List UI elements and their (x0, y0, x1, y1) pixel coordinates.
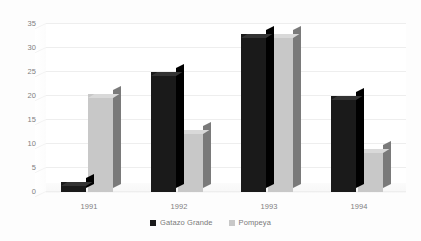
bar-1992-series1[interactable] (151, 72, 176, 192)
legend-label: Gatazo Grande (160, 218, 213, 227)
chart-legend: Gatazo GrandePompeya (0, 218, 421, 227)
bar-side-face (266, 26, 274, 188)
y-axis-tick-label: 30 (27, 44, 36, 52)
y-axis-tick-label: 20 (27, 92, 36, 100)
chart-container: 35302520151050 1991199219931994 Gatazo G… (0, 0, 421, 241)
legend-swatch-icon (229, 220, 235, 226)
x-axis-tick-label: 1992 (170, 202, 187, 211)
y-axis-tick-label: 35 (27, 20, 36, 28)
bar-1993-series1[interactable] (241, 34, 266, 192)
bars-layer (46, 24, 406, 192)
bar-side-face (293, 26, 301, 188)
bar-1994-series1[interactable] (331, 96, 356, 192)
y-axis-tick-label: 25 (27, 68, 36, 76)
x-axis-tick-label: 1991 (80, 202, 97, 211)
y-axis-tick-label: 10 (27, 140, 36, 148)
legend-label: Pompeya (239, 218, 271, 227)
bar-front-face (331, 96, 356, 192)
y-axis-tick-label: 15 (27, 116, 36, 124)
bar-1991-series1[interactable] (61, 182, 86, 192)
bar-side-face (356, 88, 364, 188)
legend-swatch-icon (150, 220, 156, 226)
x-axis-tick-label: 1993 (260, 202, 277, 211)
x-axis: 1991199219931994 (46, 194, 406, 216)
legend-item-1[interactable]: Gatazo Grande (150, 218, 213, 227)
y-axis-tick-label: 0 (32, 188, 36, 196)
bar-side-face (383, 141, 391, 188)
x-axis-tick-label: 1994 (350, 202, 367, 211)
y-axis: 35302520151050 (0, 18, 44, 198)
legend-item-2[interactable]: Pompeya (229, 218, 271, 227)
bar-side-face (176, 64, 184, 188)
bar-front-face (151, 72, 176, 192)
y-axis-tick-label: 5 (32, 164, 36, 172)
bar-side-face (113, 86, 121, 188)
bar-front-face (241, 34, 266, 192)
